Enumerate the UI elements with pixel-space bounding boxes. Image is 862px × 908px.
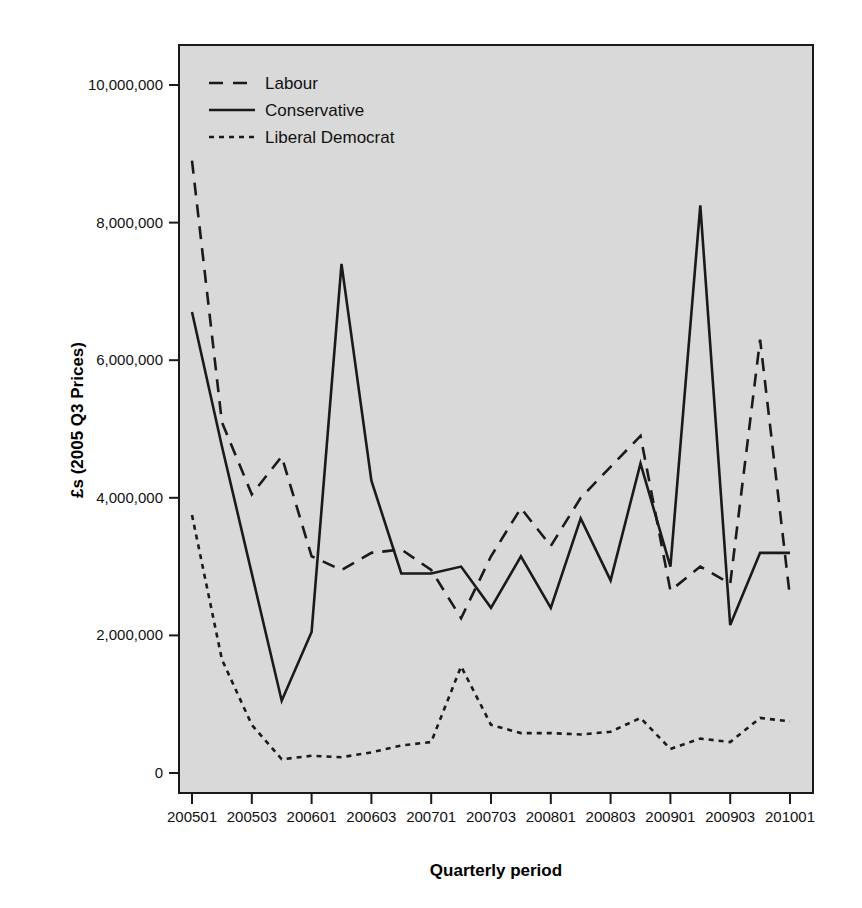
y-axis-tick-label: 2,000,000 — [96, 626, 163, 643]
x-axis-tick-label: 200903 — [705, 808, 755, 825]
y-axis-tick-label: 8,000,000 — [96, 214, 163, 231]
legend-label-labour: Labour — [265, 74, 318, 93]
y-axis-tick-label: 4,000,000 — [96, 489, 163, 506]
y-axis-tick-label: 6,000,000 — [96, 351, 163, 368]
x-axis-tick-label: 200703 — [466, 808, 516, 825]
x-axis-tick-label: 200701 — [406, 808, 456, 825]
plot-area-background — [179, 45, 813, 793]
chart-figure: 02,000,0004,000,0006,000,0008,000,00010,… — [0, 0, 862, 908]
legend-label-conservative: Conservative — [265, 101, 364, 120]
x-axis-tick-label: 200601 — [287, 808, 337, 825]
x-axis-title: Quarterly period — [430, 861, 562, 880]
x-axis-tick-label: 200603 — [346, 808, 396, 825]
x-axis-tick-label: 201001 — [765, 808, 815, 825]
y-axis-tick-label: 10,000,000 — [88, 76, 163, 93]
x-axis-tick-label: 200801 — [526, 808, 576, 825]
x-axis-tick-label: 200901 — [645, 808, 695, 825]
x-axis-tick-labels: 2005012005032006012006032007012007032008… — [167, 808, 815, 825]
x-axis-tick-label: 200501 — [167, 808, 217, 825]
y-axis-title: £s (2005 Q3 Prices) — [68, 342, 87, 498]
legend-label-liberal-democrat: Liberal Democrat — [265, 128, 395, 147]
y-axis-tick-label: 0 — [155, 764, 163, 781]
line-chart-svg: 02,000,0004,000,0006,000,0008,000,00010,… — [0, 0, 862, 908]
x-axis-tick-label: 200803 — [586, 808, 636, 825]
x-axis-tick-label: 200503 — [227, 808, 277, 825]
